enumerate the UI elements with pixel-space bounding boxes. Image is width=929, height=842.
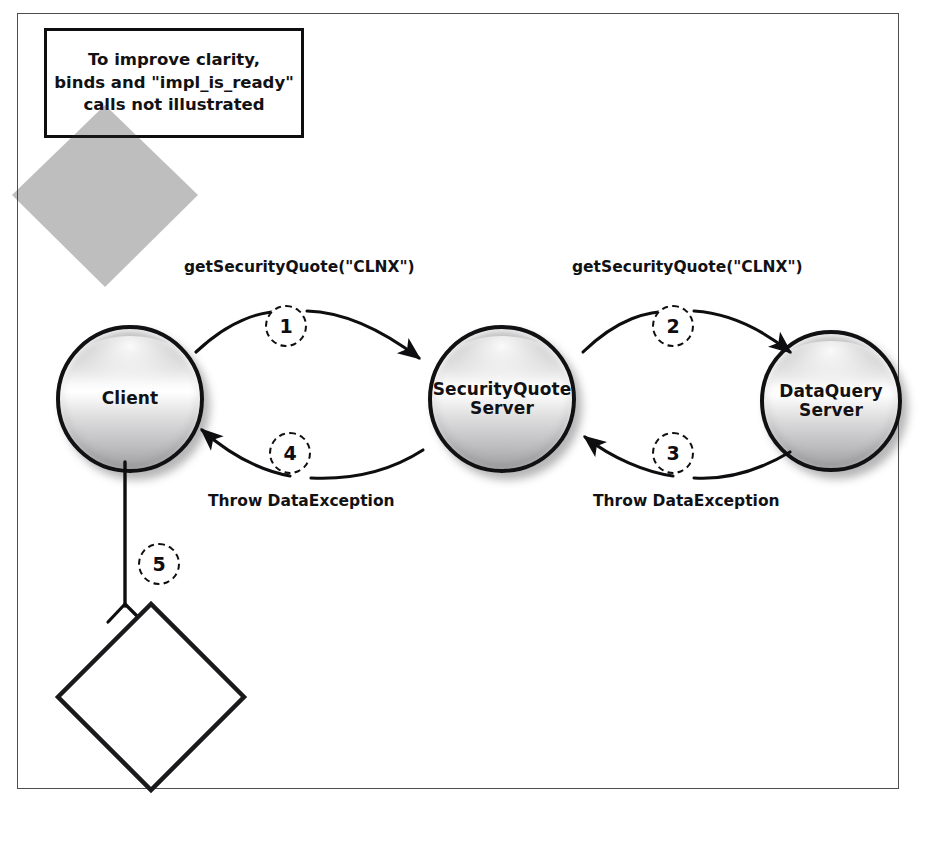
node-dataquery-label-line2: Server (779, 401, 883, 420)
step-badge-2[interactable]: 2 (652, 305, 694, 347)
edge-label-step-3: Throw DataException (593, 492, 780, 510)
decision-diamond[interactable]: Catch and Process Exception (58, 604, 244, 790)
node-client[interactable]: Client (56, 325, 204, 473)
node-dataquery-label-line1: DataQuery (779, 381, 883, 401)
step-badge-3[interactable]: 3 (652, 432, 694, 474)
step-badge-4[interactable]: 4 (269, 432, 311, 474)
edge-label-step-1: getSecurityQuote("CLNX") (184, 258, 415, 276)
decision-line-2: Process (117, 687, 185, 707)
node-client-label: Client (102, 389, 159, 408)
edge-label-step-4: Throw DataException (208, 492, 395, 510)
diagram-canvas: To improve clarity, binds and "impl_is_r… (0, 0, 929, 842)
node-securityquote-label: SecurityQuote Server (433, 380, 572, 419)
clarity-note-box: To improve clarity, binds and "impl_is_r… (44, 28, 304, 138)
node-securityquote-label-line2: Server (433, 399, 572, 418)
node-dataquery-label: DataQuery Server (779, 382, 883, 421)
note-line-3: calls not illustrated (83, 94, 264, 116)
node-client-label-line1: Client (102, 388, 159, 408)
node-dataquery-server[interactable]: DataQuery Server (760, 330, 902, 472)
decision-line-3: Exception (108, 707, 194, 727)
node-securityquote-label-line1: SecurityQuote (433, 379, 572, 399)
edge-label-step-2: getSecurityQuote("CLNX") (572, 258, 803, 276)
note-line-2: binds and "impl_is_ready" (54, 72, 294, 94)
note-line-1: To improve clarity, (88, 49, 260, 71)
step-badge-5[interactable]: 5 (138, 543, 180, 585)
node-securityquote-server[interactable]: SecurityQuote Server (428, 325, 576, 473)
step-badge-1[interactable]: 1 (265, 305, 307, 347)
decision-line-1: Catch and (107, 668, 194, 688)
decision-diamond-label: Catch and Process Exception (58, 604, 244, 790)
